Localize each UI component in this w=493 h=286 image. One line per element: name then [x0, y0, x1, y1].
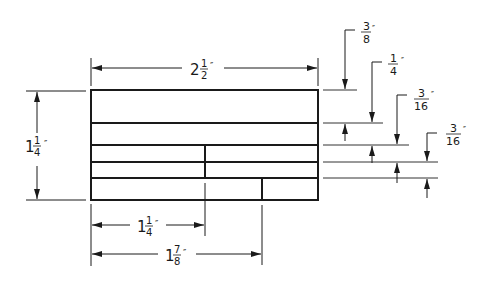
- inch-mark: ″: [210, 61, 214, 71]
- inch-mark: ″: [183, 248, 187, 258]
- dimension-right-3-label: 3 16 ″: [414, 87, 434, 113]
- dim-numerator: 3: [363, 20, 370, 33]
- dim-denominator: 4: [146, 227, 152, 238]
- dim-denominator: 16: [446, 135, 460, 148]
- inch-mark: ″: [401, 57, 404, 66]
- dim-denominator: 4: [34, 147, 40, 158]
- dimension-right-2-label: 1 4 ″: [388, 52, 404, 78]
- inch-mark: ″: [431, 91, 434, 100]
- dimension-right-2: [372, 62, 382, 163]
- dim-denominator: 4: [390, 65, 397, 78]
- dim-numerator: 1: [34, 135, 40, 146]
- dim-numerator: 7: [174, 244, 180, 255]
- inch-mark: ″: [155, 219, 159, 229]
- dim-denominator: 8: [174, 256, 180, 267]
- dimension-right-3: [397, 95, 407, 183]
- dimension-overall-height-label: 1 1 4 ″: [25, 135, 48, 158]
- dim-whole: 2: [190, 61, 200, 79]
- dimension-bottom-2-label: 1 7 8 ″: [165, 244, 187, 267]
- dim-numerator: 1: [146, 215, 152, 226]
- dimension-overall-width-label: 2 1 2 ″: [190, 58, 214, 81]
- dim-denominator: 8: [363, 33, 370, 46]
- technical-drawing: 2 1 2 ″ 1 1 4 ″ 1 1 4 ″ 1 7: [0, 0, 493, 286]
- dimension-bottom-1-label: 1 1 4 ″: [137, 215, 159, 238]
- dimension-right-4: [427, 133, 437, 198]
- dim-numerator: 1: [201, 58, 207, 69]
- dimension-right-1: [345, 30, 355, 89]
- dim-denominator: 16: [414, 100, 428, 113]
- dim-denominator: 2: [201, 70, 207, 81]
- dim-numerator: 3: [450, 122, 457, 135]
- dim-numerator: 3: [418, 87, 425, 100]
- inch-mark: ″: [44, 139, 48, 149]
- inch-mark: ″: [372, 25, 375, 34]
- inch-mark: ″: [463, 126, 466, 135]
- dimension-right-4-label: 3 16 ″: [446, 122, 466, 148]
- dimension-right-1-label: 3 8 ″: [361, 20, 375, 46]
- dim-numerator: 1: [390, 52, 397, 65]
